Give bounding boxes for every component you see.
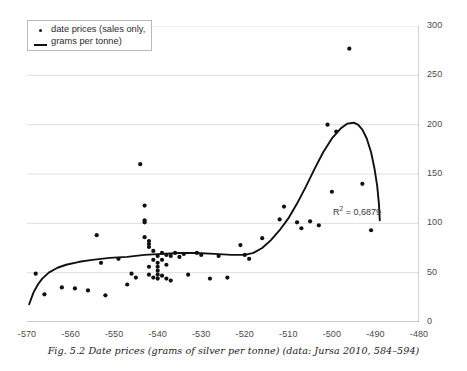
legend-label-line1: date prices (sales only, bbox=[51, 24, 145, 36]
chart-canvas bbox=[27, 26, 419, 322]
y-tick-label: 250 bbox=[427, 69, 453, 79]
legend-label-line2: grams per tonne) bbox=[51, 36, 145, 48]
plot-area bbox=[27, 26, 419, 322]
gridlines bbox=[27, 26, 419, 322]
x-tick-label: -550 bbox=[97, 329, 131, 339]
r-squared-annotation: R2 = 0,6879 bbox=[333, 205, 381, 217]
x-tick-label: -490 bbox=[358, 329, 392, 339]
x-tick-label: -540 bbox=[141, 329, 175, 339]
x-tick-label: -510 bbox=[271, 329, 305, 339]
y-tick-label: 300 bbox=[427, 20, 453, 30]
x-tick-label: -560 bbox=[54, 329, 88, 339]
x-tick-label: -570 bbox=[10, 329, 44, 339]
x-tick-label: -500 bbox=[315, 329, 349, 339]
r-squared-value: = 0,6879 bbox=[343, 207, 381, 217]
legend-label-block: date prices (sales only, grams per tonne… bbox=[48, 24, 145, 47]
x-tick-label: -480 bbox=[402, 329, 436, 339]
y-tick-label: 0 bbox=[427, 316, 453, 326]
legend-marker-dot-icon bbox=[39, 29, 42, 32]
y-tick-label: 150 bbox=[427, 168, 453, 178]
y-tick-label: 50 bbox=[427, 267, 453, 277]
data-points bbox=[34, 47, 374, 298]
chart-legend: date prices (sales only, grams per tonne… bbox=[27, 20, 152, 51]
figure-container: 050100150200250300 -570-560-550-540-530-… bbox=[0, 0, 467, 371]
y-tick-label: 100 bbox=[427, 217, 453, 227]
trend-line bbox=[29, 123, 380, 305]
y-tick-label: 200 bbox=[427, 119, 453, 129]
x-tick-label: -520 bbox=[228, 329, 262, 339]
x-tick-label: -530 bbox=[184, 329, 218, 339]
legend-key-symbols bbox=[32, 24, 48, 46]
figure-caption: Fig. 5.2 Date prices (grams of silver pe… bbox=[0, 345, 467, 356]
legend-marker-line-icon bbox=[34, 44, 47, 46]
